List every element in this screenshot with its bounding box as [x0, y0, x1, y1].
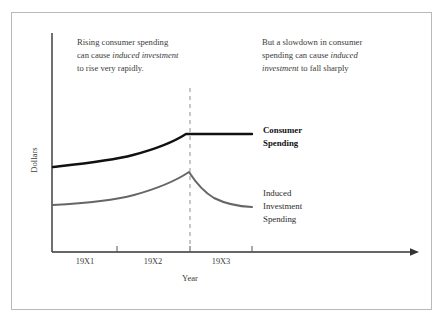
annotation-right-line3-plain: to fall sharply [299, 63, 350, 73]
x-tick-label-19x2: 19X2 [144, 257, 163, 266]
annotation-right-line2: spending can cause induced [262, 50, 358, 60]
x-tick-label-19x3: 19X3 [212, 257, 231, 266]
annotation-right-line3-italic: investment [262, 63, 299, 73]
series-label-induced-investment: Induced Investment Spending [263, 188, 303, 224]
annotation-right-line2-italic: induced [331, 50, 359, 60]
x-axis-title: Year [182, 273, 198, 283]
annotation-right: But a slowdown in consumer spending can … [262, 37, 362, 73]
annotation-left-line1: Rising consumer spending [77, 37, 169, 47]
annotation-left-line3: to rise very rapidly. [77, 63, 144, 73]
annotation-left-line2-italic: induced investment [112, 50, 179, 60]
economics-line-chart: Dollars 19X1 19X2 19X3 Year Rising consu… [0, 0, 444, 322]
series-label-induced-line2: Investment [263, 201, 303, 211]
curve-consumer-spending [53, 134, 252, 167]
annotation-right-line3: investment to fall sharply [262, 63, 349, 73]
annotation-left-line2: can cause induced investment [77, 50, 179, 60]
curve-induced-investment [53, 172, 252, 207]
series-label-consumer-line1: Consumer [263, 125, 302, 135]
figure-page: Dollars 19X1 19X2 19X3 Year Rising consu… [0, 0, 444, 322]
x-axis-ticks [117, 246, 252, 252]
series-label-induced-line3: Spending [263, 214, 297, 224]
x-tick-label-19x1: 19X1 [76, 257, 95, 266]
annotation-right-line1: But a slowdown in consumer [262, 37, 362, 47]
series-label-consumer-line2: Spending [263, 138, 299, 148]
x-axis-arrowhead [410, 248, 419, 256]
annotation-left-line2-plain: can cause [77, 50, 112, 60]
series-label-induced-line1: Induced [263, 188, 292, 198]
annotation-right-line2-plain: spending can cause [262, 50, 331, 60]
annotation-left: Rising consumer spending can cause induc… [77, 37, 179, 73]
series-label-consumer-spending: Consumer Spending [263, 125, 302, 148]
y-axis-title: Dollars [29, 147, 39, 173]
